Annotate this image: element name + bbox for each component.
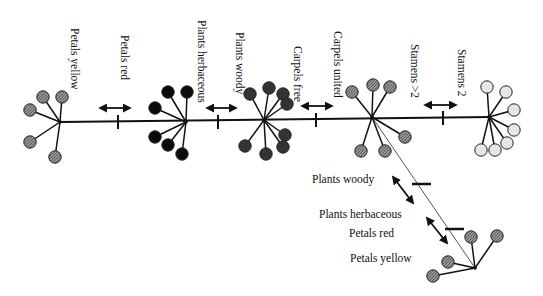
petal-circle-icon xyxy=(346,86,358,98)
petal-circle-icon xyxy=(465,231,477,243)
label-branch-petals-red: Petals red xyxy=(349,227,394,239)
petal-circle-icon xyxy=(489,144,501,156)
branch-lines xyxy=(60,117,490,268)
petal-circle-icon xyxy=(500,86,512,98)
petal-circle-icon xyxy=(379,145,391,157)
character-arrows xyxy=(100,105,456,243)
label-petals-red: Petals red xyxy=(119,35,131,80)
character-tree-diagram: Petals yellowPetals redPlants herbaceous… xyxy=(0,0,543,296)
stamens-2-taxon xyxy=(475,81,520,156)
label-plants-woody: Plants woody xyxy=(233,32,246,95)
petals-red-taxon xyxy=(149,86,193,160)
petal-circle-icon xyxy=(277,141,289,153)
petal-circle-icon xyxy=(508,104,520,116)
character-change-ticks xyxy=(118,111,464,229)
petal-circle-icon xyxy=(427,270,439,282)
petal-circle-icon xyxy=(281,98,293,110)
petal-circle-icon xyxy=(367,79,379,91)
label-branch-petals-yellow: Petals yellow xyxy=(350,252,412,265)
branch-taxon xyxy=(427,230,503,282)
label-branch-plants-herbaceous: Plants herbaceous xyxy=(319,208,402,220)
petals-yellow-taxon xyxy=(24,91,68,163)
petal-circle-icon xyxy=(149,131,161,143)
petal-circle-icon xyxy=(263,82,275,94)
label-carpels-free: Carpels free xyxy=(291,46,304,102)
label-stamens-2: Stamens 2 xyxy=(456,49,468,97)
petal-circle-icon xyxy=(37,91,49,103)
taxon-nodes xyxy=(24,79,520,282)
side-branch-line xyxy=(372,117,475,268)
petal-circle-icon xyxy=(384,81,396,93)
petal-circle-icon xyxy=(260,148,272,160)
petal-circle-icon xyxy=(475,144,487,156)
petal-circle-icon xyxy=(442,256,454,268)
petal-circle-icon xyxy=(162,86,174,98)
petal-circle-icon xyxy=(49,151,61,163)
petal-circle-icon xyxy=(279,129,291,141)
petal-circle-icon xyxy=(481,81,493,93)
petal-circle-icon xyxy=(24,104,36,116)
label-branch-plants-woody: Plants woody xyxy=(312,173,375,186)
double-arrow-icon xyxy=(393,177,413,203)
petal-circle-icon xyxy=(162,139,174,151)
petal-circle-icon xyxy=(24,136,36,148)
label-stamens-gt2: Stamens >2 xyxy=(409,44,421,98)
main-axis-line xyxy=(60,117,490,122)
petal-circle-icon xyxy=(181,86,193,98)
label-plants-herbaceous: Plants herbaceous xyxy=(196,20,208,103)
label-petals-yellow: Petals yellow xyxy=(68,28,81,90)
petal-circle-icon xyxy=(399,131,411,143)
petal-circle-icon xyxy=(491,230,503,242)
petal-circle-icon xyxy=(149,102,161,114)
label-carpels-united: Carpels united xyxy=(331,31,344,98)
petal-circle-icon xyxy=(56,91,68,103)
petal-circle-icon xyxy=(501,137,513,149)
petal-circle-icon xyxy=(355,145,367,157)
petal-circle-icon xyxy=(176,148,188,160)
petal-circle-icon xyxy=(508,124,520,136)
petal-circle-icon xyxy=(239,140,251,152)
